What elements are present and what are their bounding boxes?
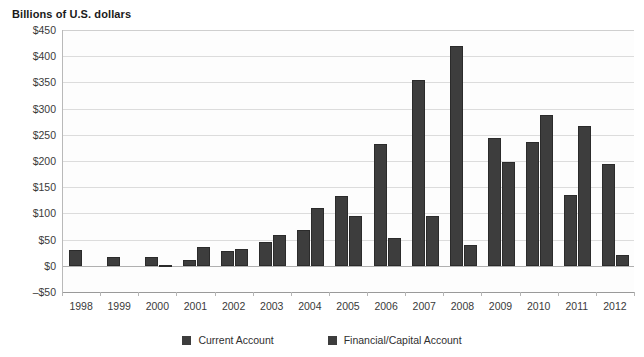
bar-group-2000: [139, 30, 177, 292]
bar[interactable]: [197, 247, 210, 265]
x-axis-tick: [634, 292, 635, 296]
bar-group-2011: [559, 30, 597, 292]
bar-group-2001: [177, 30, 215, 292]
x-axis-tick-label: 2002: [222, 300, 245, 312]
bar[interactable]: [107, 257, 120, 265]
bar[interactable]: [259, 242, 272, 266]
y-axis-tick-label: $300: [10, 103, 56, 115]
y-axis-tick-label: $50: [10, 234, 56, 246]
bar-group-1999: [101, 30, 139, 292]
bar[interactable]: [221, 251, 234, 266]
x-axis-tick: [367, 292, 368, 296]
legend-item-financial-capital-account[interactable]: Financial/Capital Account: [328, 334, 462, 346]
bar-group-2008: [444, 30, 482, 292]
x-axis-tick-label: 1998: [69, 300, 92, 312]
bar[interactable]: [564, 195, 577, 266]
bar[interactable]: [349, 216, 362, 266]
bar[interactable]: [488, 138, 501, 265]
bar-group-2005: [330, 30, 368, 292]
bar[interactable]: [412, 80, 425, 266]
x-axis-tick: [596, 292, 597, 296]
x-axis-tick-label: 2005: [336, 300, 359, 312]
y-axis-tick-label: –$50: [10, 286, 56, 298]
bar-group-2009: [482, 30, 520, 292]
bar[interactable]: [450, 46, 463, 266]
bar[interactable]: [540, 115, 553, 265]
bar[interactable]: [159, 265, 172, 267]
x-axis-tick: [100, 292, 101, 296]
bar-chart: Billions of U.S. dollars $450$400$350$30…: [0, 0, 644, 357]
x-axis-tick-label: 2000: [146, 300, 169, 312]
x-axis-tick: [405, 292, 406, 296]
bar[interactable]: [273, 235, 286, 266]
bar[interactable]: [69, 250, 82, 266]
x-axis-tick: [291, 292, 292, 296]
bar[interactable]: [578, 126, 591, 265]
chart-title: Billions of U.S. dollars: [12, 8, 131, 20]
x-axis-tick-label: 2011: [566, 300, 589, 312]
x-axis-tick-label: 2001: [184, 300, 207, 312]
y-axis-tick-label: $150: [10, 181, 56, 193]
bar-group-2004: [292, 30, 330, 292]
x-axis-tick-label: 2008: [451, 300, 474, 312]
bar-group-1998: [63, 30, 101, 292]
bar[interactable]: [616, 255, 629, 265]
x-axis-tick: [62, 292, 63, 296]
x-axis-tick-label: 2007: [413, 300, 436, 312]
x-axis-tick: [558, 292, 559, 296]
y-axis-tick-label: $100: [10, 207, 56, 219]
bar[interactable]: [388, 238, 401, 266]
legend-item-current-account[interactable]: Current Account: [182, 334, 273, 346]
y-axis-tick-label: $250: [10, 129, 56, 141]
bar[interactable]: [426, 216, 439, 266]
y-axis-tick-label: $0: [10, 260, 56, 272]
y-axis-tick-label: $350: [10, 76, 56, 88]
x-axis-tick: [443, 292, 444, 296]
x-axis-tick: [481, 292, 482, 296]
legend-label-financial-capital-account: Financial/Capital Account: [344, 334, 462, 346]
y-axis-tick-label: $450: [10, 24, 56, 36]
legend-label-current-account: Current Account: [198, 334, 273, 346]
bar[interactable]: [502, 162, 515, 266]
x-axis-tick-label: 2010: [527, 300, 550, 312]
bars-layer: [63, 30, 634, 292]
plot-area: [62, 30, 634, 292]
bar-group-2007: [406, 30, 444, 292]
bar[interactable]: [183, 260, 196, 266]
x-axis-tick: [176, 292, 177, 296]
bar-group-2002: [216, 30, 254, 292]
y-axis-tick-label: $400: [10, 50, 56, 62]
x-axis-tick: [253, 292, 254, 296]
bar[interactable]: [526, 142, 539, 266]
bar-group-2012: [597, 30, 635, 292]
x-axis-tick-label: 2003: [260, 300, 283, 312]
x-axis-tick: [138, 292, 139, 296]
x-axis-tick-label: 2009: [489, 300, 512, 312]
bar[interactable]: [311, 208, 324, 266]
x-axis-tick: [520, 292, 521, 296]
y-axis-tick-label: $200: [10, 155, 56, 167]
bar[interactable]: [297, 230, 310, 266]
bar[interactable]: [235, 249, 248, 266]
bar[interactable]: [602, 164, 615, 266]
chart-legend: Current Account Financial/Capital Accoun…: [0, 334, 644, 346]
x-axis-line: [62, 292, 634, 293]
bar[interactable]: [464, 245, 477, 266]
x-axis-tick-label: 2012: [603, 300, 626, 312]
bar[interactable]: [335, 196, 348, 266]
legend-swatch-icon: [328, 336, 337, 345]
bar[interactable]: [145, 257, 158, 266]
x-axis-tick-label: 1999: [108, 300, 131, 312]
x-axis-tick: [329, 292, 330, 296]
x-axis-tick-label: 2006: [374, 300, 397, 312]
bar-group-2010: [521, 30, 559, 292]
x-axis-tick-label: 2004: [298, 300, 321, 312]
bar-group-2003: [254, 30, 292, 292]
bar[interactable]: [374, 144, 387, 266]
bar-group-2006: [368, 30, 406, 292]
legend-swatch-icon: [182, 336, 191, 345]
x-axis-tick: [215, 292, 216, 296]
